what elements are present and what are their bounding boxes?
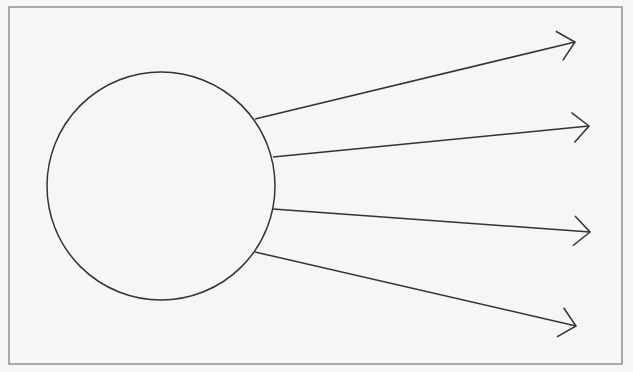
arrow-4-shaft	[255, 252, 576, 326]
arrow-3-shaft	[273, 209, 590, 232]
arrow-1-shaft	[255, 42, 575, 119]
source-circle	[47, 72, 275, 300]
diagram-canvas	[0, 0, 633, 372]
arrow-2-shaft	[273, 126, 589, 157]
diagram-frame	[9, 7, 622, 364]
arrows-group	[255, 31, 590, 337]
